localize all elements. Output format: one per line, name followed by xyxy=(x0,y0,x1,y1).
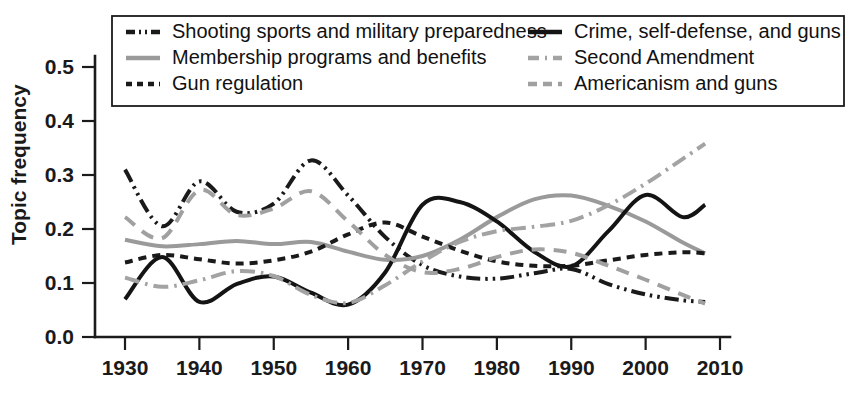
legend-label: Americanism and guns xyxy=(574,72,777,94)
legend-label: Membership programs and benefits xyxy=(172,46,487,68)
legend-label: Shooting sports and military preparednes… xyxy=(172,20,547,42)
x-tick-label: 2010 xyxy=(697,356,744,379)
legend-label: Gun regulation xyxy=(172,72,303,94)
chart-legend: Shooting sports and military preparednes… xyxy=(112,16,844,106)
line-chart-canvas: Topic frequency 0.00.10.20.30.40.5 19301… xyxy=(0,0,865,394)
x-tick-label: 2000 xyxy=(622,356,669,379)
x-tick-label: 1930 xyxy=(102,356,149,379)
chart-figure: Topic frequency 0.00.10.20.30.40.5 19301… xyxy=(0,0,865,394)
legend-label: Second Amendment xyxy=(574,46,755,68)
y-tick-label: 0.3 xyxy=(45,163,74,186)
x-tick-label: 1970 xyxy=(399,356,446,379)
x-tick-label: 1940 xyxy=(176,356,223,379)
y-tick-label: 0.2 xyxy=(45,217,74,240)
x-tick-label: 1950 xyxy=(250,356,297,379)
y-tick-label: 0.4 xyxy=(45,109,75,132)
legend-label: Crime, self-defense, and guns xyxy=(574,20,841,42)
legend-entry-0[interactable]: Shooting sports and military preparednes… xyxy=(126,20,547,42)
x-axis-tick-labels: 193019401950196019701980199020002010 xyxy=(102,356,744,379)
legend-entry-3[interactable]: Crime, self-defense, and guns xyxy=(528,20,841,42)
y-tick-label: 0.0 xyxy=(45,325,74,348)
x-tick-label: 1960 xyxy=(325,356,372,379)
legend-entry-1[interactable]: Membership programs and benefits xyxy=(126,46,487,68)
y-tick-label: 0.1 xyxy=(45,271,75,294)
x-tick-label: 1980 xyxy=(474,356,521,379)
x-tick-label: 1990 xyxy=(548,356,595,379)
y-tick-label: 0.5 xyxy=(45,55,75,78)
y-axis-label: Topic frequency xyxy=(7,84,30,245)
